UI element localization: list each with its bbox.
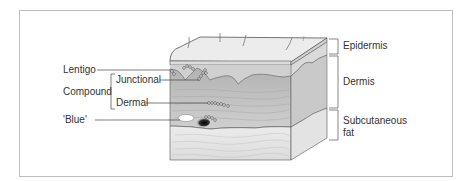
label-lentigo: Lentigo: [63, 64, 96, 76]
label-compound: Compound: [63, 86, 112, 98]
label-junctional: Junctional: [116, 74, 161, 86]
label-dermal: Dermal: [116, 97, 148, 109]
right-brackets: [329, 39, 338, 140]
label-dermis: Dermis: [343, 76, 375, 88]
front-face: [170, 61, 291, 160]
label-epidermis: Epidermis: [343, 40, 387, 52]
label-blue: 'Blue': [63, 114, 87, 126]
label-fat: fat: [343, 127, 354, 139]
label-subcutaneous: Subcutaneous: [343, 115, 407, 127]
